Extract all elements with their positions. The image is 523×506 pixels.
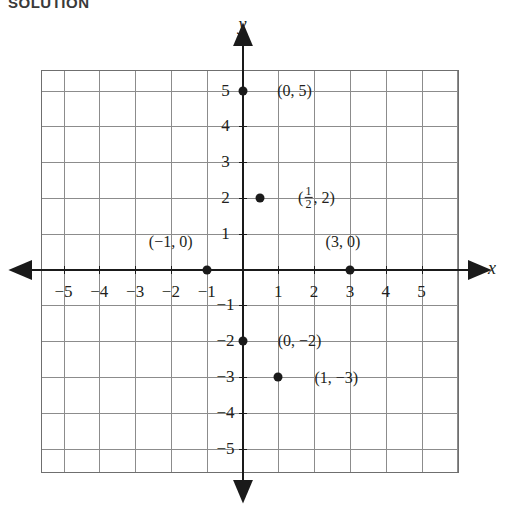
- y-tick-label: −5: [216, 439, 234, 459]
- y-tick-label: −2: [216, 331, 234, 351]
- x-tick-label: −1: [198, 282, 216, 302]
- x-tick-label: −2: [162, 282, 180, 302]
- point-label: (−1, 0): [149, 233, 193, 251]
- x-tick-label: −5: [54, 282, 72, 302]
- y-tick-label: 5: [221, 81, 230, 101]
- plotted-point: [274, 372, 283, 381]
- plotted-point: [345, 265, 354, 274]
- grid-border: [42, 71, 459, 473]
- grid-lines: [41, 70, 459, 473]
- y-tick-label: 3: [221, 152, 230, 172]
- point-label: (12, 2): [298, 186, 335, 212]
- point-label: (0, −2): [278, 332, 322, 350]
- plotted-point: [238, 337, 247, 346]
- x-tick-label: 2: [310, 282, 319, 302]
- y-tick-label: 1: [221, 224, 230, 244]
- x-axis-label: x: [488, 257, 496, 278]
- point-label: (3, 0): [326, 233, 361, 251]
- y-axis-label: y: [239, 14, 247, 35]
- x-tick-label: 1: [274, 282, 283, 302]
- x-tick-label: −4: [90, 282, 108, 302]
- x-tick-label: 4: [381, 282, 390, 302]
- axis-lines: [22, 44, 470, 490]
- point-label: (1, −3): [314, 369, 358, 387]
- x-tick-label: −3: [126, 282, 144, 302]
- x-tick-label: 3: [346, 282, 355, 302]
- plotted-point: [238, 86, 247, 95]
- x-tick-label: 5: [417, 282, 426, 302]
- plotted-point: [256, 193, 265, 202]
- y-tick-label: 2: [221, 188, 230, 208]
- y-tick-label: −3: [216, 367, 234, 387]
- y-tick-label: −1: [216, 295, 234, 315]
- y-tick-label: 4: [221, 116, 230, 136]
- plotted-point: [202, 265, 211, 274]
- coordinate-plane: [0, 0, 523, 506]
- point-label: (0, 5): [277, 82, 312, 100]
- y-tick-label: −4: [216, 403, 234, 423]
